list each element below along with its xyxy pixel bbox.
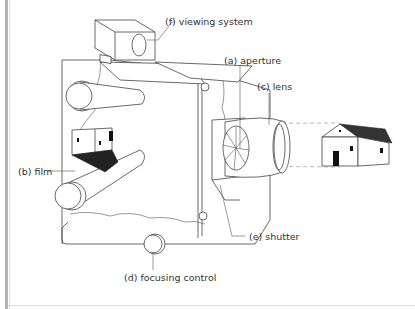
house-window-1 [350,146,353,151]
film-roller-bottom-cap [55,183,81,209]
pulley-bottom [199,212,207,220]
label-viewing-system: (f) viewing system [165,16,253,27]
film-roller-top-cap [66,83,92,109]
label-film: (b) film [18,166,52,177]
label-lens: (c) lens [257,81,292,92]
house [322,124,392,166]
house-attic-window [339,130,341,132]
viewing-system [95,20,155,64]
house-front-wall [322,137,358,166]
label-shutter: (e) shutter [249,231,300,242]
camera-diagram: (f) viewing system (a) aperture (c) lens… [0,0,415,309]
lens-front-element [274,121,290,173]
focusing-knob [144,234,165,254]
inverted-house-door [109,131,113,141]
viewfinder-window [100,55,111,64]
inverted-house-window-2 [99,141,101,145]
focusing-knob-face [144,235,162,253]
label-aperture: (a) aperture [224,55,281,66]
pulley-top [201,83,209,91]
house-door [333,151,339,166]
house-window-2 [380,148,383,153]
viewfinder-lens [132,34,146,56]
inverted-house-window-1 [77,138,79,142]
label-focusing-control: (d) focusing control [124,272,216,283]
viewfinder-housing [95,20,155,60]
